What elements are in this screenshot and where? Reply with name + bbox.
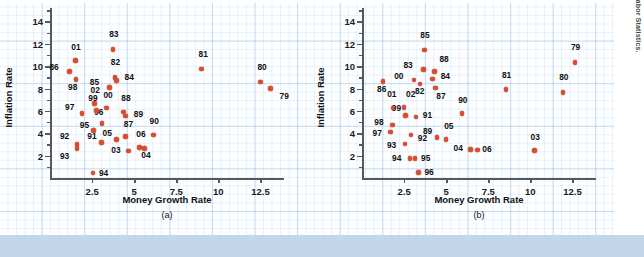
data-point-label-b-94: 94 bbox=[392, 154, 401, 162]
data-point-label-b-86: 86 bbox=[377, 85, 386, 93]
y-axis-title-b: Inflation Rate bbox=[315, 67, 326, 127]
data-point-label-a-02: 02 bbox=[91, 86, 100, 94]
data-point-label-a-79: 79 bbox=[280, 92, 289, 100]
data-point-b-81 bbox=[504, 87, 509, 92]
data-point-label-a-80: 80 bbox=[257, 63, 266, 71]
data-point-a-80 bbox=[258, 80, 263, 85]
data-point-b-97 bbox=[388, 130, 393, 135]
x-axis-line-a bbox=[50, 178, 284, 180]
y-minor-tick-b-11 bbox=[359, 55, 363, 56]
y-minor-tick-b-7 bbox=[359, 100, 363, 101]
data-point-label-b-95: 95 bbox=[421, 154, 430, 162]
data-point-b-84 bbox=[430, 77, 435, 82]
data-point-b-98 bbox=[390, 123, 395, 128]
y-minor-tick-a-7 bbox=[47, 100, 51, 101]
data-point-b-99 bbox=[403, 113, 408, 118]
y-tick-label-b-6: 6 bbox=[350, 105, 355, 116]
data-point-label-b-00: 00 bbox=[394, 72, 403, 80]
y-tick-label-a-4: 4 bbox=[38, 128, 43, 139]
x-tick-b-2.5 bbox=[404, 178, 405, 183]
data-point-label-b-84: 84 bbox=[441, 72, 450, 80]
y-tick-label-a-8: 8 bbox=[38, 83, 43, 94]
y-minor-tick-a-3 bbox=[47, 144, 51, 145]
data-point-b-06 bbox=[475, 148, 480, 153]
y-minor-tick-b-5 bbox=[359, 122, 363, 123]
y-tick-label-b-10: 10 bbox=[344, 61, 355, 72]
x-tick-b-5 bbox=[446, 178, 447, 183]
x-tick-a-5 bbox=[134, 178, 135, 183]
panel-caption-a: (a) bbox=[50, 210, 284, 220]
y-minor-tick-a-11 bbox=[47, 55, 51, 56]
data-point-a-91 bbox=[99, 140, 104, 145]
y-tick-label-b-4: 4 bbox=[350, 128, 355, 139]
data-point-label-a-81: 81 bbox=[199, 50, 208, 58]
data-point-a-99 bbox=[94, 108, 99, 113]
data-point-label-a-87: 87 bbox=[124, 120, 133, 128]
data-point-a-95 bbox=[91, 128, 96, 133]
y-tick-label-a-10: 10 bbox=[32, 61, 43, 72]
data-point-b-02 bbox=[402, 105, 407, 110]
bottom-band bbox=[0, 235, 644, 257]
y-tick-a-8 bbox=[45, 89, 50, 90]
data-point-label-b-90: 90 bbox=[458, 96, 467, 104]
data-point-b-91 bbox=[414, 115, 419, 120]
y-tick-b-8 bbox=[357, 89, 362, 90]
data-point-label-b-91: 91 bbox=[423, 111, 432, 119]
y-tick-label-a-12: 12 bbox=[32, 38, 43, 49]
figure-root: Inflation Rate 24681012142.557.51012.579… bbox=[0, 0, 644, 257]
data-point-b-90 bbox=[460, 111, 465, 116]
y-tick-label-b-8: 8 bbox=[350, 83, 355, 94]
data-point-b-04 bbox=[468, 147, 473, 152]
data-point-label-a-05: 05 bbox=[102, 129, 111, 137]
y-minor-tick-a-13 bbox=[47, 33, 51, 34]
data-point-label-a-97: 97 bbox=[65, 103, 74, 111]
data-point-label-a-90: 90 bbox=[150, 117, 159, 125]
data-point-label-a-00: 00 bbox=[103, 91, 112, 99]
y-tick-a-4 bbox=[45, 133, 50, 134]
data-point-label-a-92: 92 bbox=[60, 132, 69, 140]
data-point-b-86 bbox=[381, 79, 386, 84]
x-axis-title-a: Money Growth Rate bbox=[50, 194, 284, 205]
y-minor-tick-b-15 bbox=[359, 10, 363, 11]
data-point-a-79 bbox=[268, 86, 273, 91]
data-point-label-b-93: 93 bbox=[387, 141, 396, 149]
data-point-label-a-88: 88 bbox=[121, 94, 130, 102]
data-point-b-89 bbox=[435, 135, 440, 140]
data-point-label-b-83: 83 bbox=[403, 61, 412, 69]
data-point-label-b-05: 05 bbox=[444, 122, 453, 130]
data-point-a-83 bbox=[111, 47, 116, 52]
y-minor-tick-b-3 bbox=[359, 144, 363, 145]
data-point-label-a-98: 98 bbox=[68, 83, 77, 91]
x-axis-title-b: Money Growth Rate bbox=[362, 194, 596, 205]
data-point-b-79 bbox=[573, 60, 578, 65]
data-point-label-b-81: 81 bbox=[502, 71, 511, 79]
y-tick-label-a-6: 6 bbox=[38, 105, 43, 116]
data-point-b-92 bbox=[409, 133, 414, 138]
data-point-label-a-95: 95 bbox=[80, 121, 89, 129]
data-point-a-94 bbox=[91, 171, 96, 176]
data-point-b-88 bbox=[432, 69, 437, 74]
data-point-label-b-97: 97 bbox=[373, 129, 382, 137]
data-point-b-05 bbox=[444, 137, 449, 142]
data-point-b-87 bbox=[433, 86, 438, 91]
data-point-b-83 bbox=[421, 67, 426, 72]
data-point-label-a-84: 84 bbox=[124, 73, 133, 81]
y-tick-a-14 bbox=[45, 21, 50, 22]
data-point-a-90 bbox=[151, 133, 156, 138]
plot-area-b: 24681012142.557.51012.579808182838485868… bbox=[362, 8, 596, 178]
data-point-label-b-01: 01 bbox=[387, 90, 396, 98]
y-tick-a-6 bbox=[45, 111, 50, 112]
data-point-a-05 bbox=[114, 137, 119, 142]
data-point-label-b-04: 04 bbox=[454, 144, 463, 152]
y-tick-label-b-2: 2 bbox=[350, 150, 355, 161]
x-tick-a-12.5 bbox=[260, 178, 261, 183]
data-point-a-01 bbox=[73, 58, 78, 63]
data-point-label-a-89: 89 bbox=[134, 110, 143, 118]
data-point-label-a-06: 06 bbox=[136, 130, 145, 138]
y-axis-line-a bbox=[50, 8, 52, 178]
x-tick-a-2.5 bbox=[92, 178, 93, 183]
data-point-a-93 bbox=[75, 146, 80, 151]
plot-area-a: 24681012142.557.51012.579808182838485868… bbox=[50, 8, 284, 178]
data-point-b-03 bbox=[532, 148, 537, 153]
y-tick-label-b-12: 12 bbox=[344, 38, 355, 49]
